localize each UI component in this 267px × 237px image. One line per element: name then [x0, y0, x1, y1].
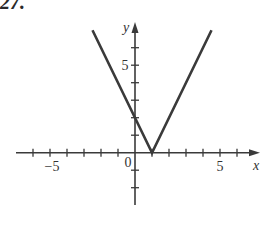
x-tick-label: 5	[217, 159, 224, 174]
graph: −5055xy	[0, 0, 267, 237]
x-axis-label: x	[252, 158, 260, 173]
y-tick-label: 5	[122, 58, 129, 73]
x-tick-label: −5	[45, 159, 60, 174]
function-graph	[93, 30, 212, 153]
origin-label: 0	[125, 155, 132, 170]
y-axis-label: y	[121, 20, 130, 35]
x-axis-arrow-icon	[249, 149, 260, 156]
y-axis-arrow-icon	[132, 22, 139, 33]
